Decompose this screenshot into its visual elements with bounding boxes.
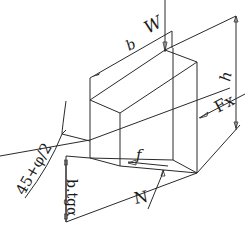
slip-plane [66,16,240,222]
label-weight: W [140,11,166,38]
angle-arc [62,101,66,134]
label-width: b [123,35,138,53]
normal-arrow [148,170,165,209]
label-friction: f [135,146,144,164]
weight-arrow [163,0,167,52]
label-height: h [216,70,235,83]
label-angle: 45+φ/2 [12,140,56,198]
label-normal: N [132,187,149,208]
friction-arrow [128,160,168,166]
label-base-length: b.tgα [64,179,80,217]
force-diagram: W b h Fx f N 45+φ/2 b.tgα [0,0,252,231]
label-fx: Fx [211,90,238,116]
